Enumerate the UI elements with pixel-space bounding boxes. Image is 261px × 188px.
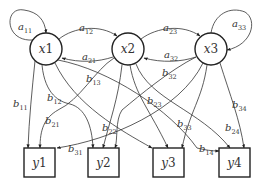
edge-label-b33: b33 <box>177 118 192 132</box>
edge-b14 <box>58 60 219 151</box>
state-node-label: x2 <box>121 42 135 56</box>
edge-label-b12: b12 <box>47 92 62 106</box>
edge-label-b31: b31 <box>68 143 83 157</box>
output-node-label: y4 <box>226 156 242 170</box>
edge-label-b32: b32 <box>162 67 177 81</box>
state-node-label: x1 <box>39 42 53 56</box>
edge-b11 <box>28 61 35 148</box>
edge-label-b14: b14 <box>199 143 214 157</box>
edge-label-a23: a23 <box>163 22 177 36</box>
edge-label-b11: b11 <box>13 98 28 112</box>
output-node-y3: y3 <box>153 148 184 177</box>
edge-label-a11: a11 <box>18 21 32 35</box>
state-node-label: x3 <box>204 42 218 56</box>
state-node-x2: x2 <box>112 33 144 65</box>
edge-label-b23: b23 <box>147 95 162 109</box>
state-node-x3: x3 <box>195 33 227 65</box>
output-node-y2: y2 <box>88 148 119 177</box>
state-space-diagram: a11a12a21a23a32a33b11b12b13b14b21b22b23b… <box>0 0 261 188</box>
edge-label-b24: b24 <box>225 122 240 136</box>
output-node-label: y3 <box>160 156 175 170</box>
edges-layer <box>10 10 252 151</box>
edge-label-a21: a21 <box>82 51 96 65</box>
edge-b24 <box>136 64 230 148</box>
output-node-label: y2 <box>95 156 110 170</box>
output-node-label: y1 <box>31 156 46 170</box>
edge-label-b21: b21 <box>45 115 60 129</box>
edge-label-b34: b34 <box>232 99 247 113</box>
edge-label-a33: a33 <box>232 18 246 32</box>
output-node-y4: y4 <box>219 148 250 177</box>
edge-b13 <box>55 63 152 148</box>
edge-label-a12: a12 <box>79 22 93 36</box>
edge-label-b13: b13 <box>86 73 101 87</box>
edge-b21 <box>40 58 114 148</box>
edge-label-a32: a32 <box>164 49 178 63</box>
output-node-y1: y1 <box>24 148 55 177</box>
state-node-x1: x1 <box>30 33 62 65</box>
